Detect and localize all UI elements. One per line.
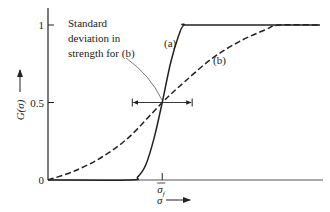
std-text-line1: Standard	[68, 17, 108, 29]
y-axis-label-group: G(σ)	[14, 99, 27, 120]
strength-distribution-chart: 00.51 σf Standard deviation in strength …	[0, 0, 330, 212]
std-text-line2: deviation in	[68, 32, 121, 44]
y-tick-label: 0.5	[30, 97, 44, 109]
y-tick-label: 0	[39, 174, 45, 186]
label-b: (b)	[213, 54, 226, 67]
x-axis-label: σ	[157, 194, 163, 206]
std-leader-line	[126, 58, 162, 100]
y-tick-label: 1	[39, 19, 45, 31]
label-a: (a)	[164, 37, 177, 50]
std-text-line3: strength for (b)	[68, 47, 135, 60]
y-axis-label: G(σ)	[14, 99, 27, 120]
std-annotation: Standard deviation in strength for (b)	[68, 17, 192, 107]
